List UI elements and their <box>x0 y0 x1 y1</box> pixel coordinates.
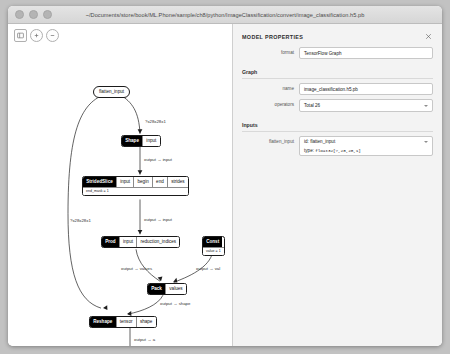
graph-toolbar <box>14 29 59 42</box>
window-titlebar: ~/Documents/store/book/ML.Phone/sample/c… <box>8 6 442 24</box>
edge-label-prod-pack: output → values <box>121 266 152 271</box>
operators-value[interactable]: Total 26 <box>299 99 433 111</box>
node-header-row: Const <box>203 237 224 247</box>
panel-title: MODEL PROPERTIES <box>242 34 303 40</box>
node-port-input: input <box>116 177 133 187</box>
graph-section-title: Graph <box>242 69 433 79</box>
type-value: float32[?,28,28,1] <box>315 148 361 153</box>
zoom-in-icon[interactable] <box>30 29 43 42</box>
name-value: image_classification.h5.pb <box>299 83 433 95</box>
node-attribute-value: value = 1 <box>203 247 224 256</box>
node-header-row: Reshape tensor shape <box>90 317 156 327</box>
node-header-row: Pack values <box>148 284 186 294</box>
edge-label-const-pack: output → val <box>196 266 220 271</box>
format-value: TensorFlow Graph <box>299 47 433 59</box>
node-header-row: Shape input <box>122 136 160 146</box>
operators-label: operators <box>242 99 299 107</box>
flatten-input-value[interactable]: id: flatten_input type: float32[?,28,28,… <box>299 136 433 157</box>
node-title: StridedSlice <box>83 177 116 187</box>
graph-node-pack[interactable]: Pack values <box>147 283 187 295</box>
node-attribute-end-mask: end_mask = 1 <box>83 187 188 196</box>
node-port-strides: strides <box>167 177 188 187</box>
node-port-end: end <box>152 177 167 187</box>
graph-node-stridedslice[interactable]: StridedSlice input begin end strides end… <box>82 176 189 196</box>
inputs-section: Inputs <box>233 116 442 136</box>
graph-node-flatten-input[interactable]: flatten_input <box>93 86 130 98</box>
flatten-input-type: type: float32[?,28,28,1] <box>304 148 428 153</box>
node-port-input: input <box>119 237 136 247</box>
type-label: type: <box>304 148 315 153</box>
app-window: ~/Documents/store/book/ML.Phone/sample/c… <box>8 6 442 346</box>
graph-node-reshape[interactable]: Reshape tensor shape <box>89 316 157 328</box>
graph-node-const[interactable]: Const value = 1 <box>202 236 225 256</box>
node-port-shape: shape <box>136 317 156 327</box>
window-title: ~/Documents/store/book/ML.Phone/sample/c… <box>8 12 442 18</box>
properties-header: MODEL PROPERTIES <box>233 24 442 47</box>
node-title: Reshape <box>90 317 116 327</box>
node-header-row: Prod input reduction_indices <box>102 237 179 247</box>
edge-label-shape-stridedslice: output → input <box>144 157 172 162</box>
window-body: flatten_input Shape input StridedSlice i… <box>8 24 442 346</box>
name-label: name <box>242 83 299 91</box>
close-icon[interactable] <box>424 32 433 41</box>
node-title: Pack <box>148 284 165 294</box>
node-title: Const <box>203 237 222 247</box>
graph-pane[interactable]: flatten_input Shape input StridedSlice i… <box>8 24 233 346</box>
sidebar-icon[interactable] <box>14 29 27 42</box>
flatten-input-id: id: flatten_input <box>304 139 428 144</box>
node-port-begin: begin <box>133 177 152 187</box>
node-port-tensor: tensor <box>116 317 136 327</box>
field-flatten-input[interactable]: flatten_input id: flatten_input type: fl… <box>233 136 442 161</box>
format-label: format <box>242 47 299 55</box>
node-port-input: input <box>142 136 159 146</box>
edge-label-input-shape: ?x28x28x1 <box>145 119 166 124</box>
field-name: name image_classification.h5.pb <box>233 83 442 99</box>
node-port-reduction-indices: reduction_indices <box>136 237 179 247</box>
node-label: flatten_input <box>99 90 124 95</box>
graph-node-shape[interactable]: Shape input <box>121 135 161 147</box>
edge-label-pack-reshape: output → shape <box>160 301 190 306</box>
node-header-row: StridedSlice input begin end strides <box>83 177 188 187</box>
screenshot-root: ~/Documents/store/book/ML.Phone/sample/c… <box>0 0 450 354</box>
edge-label-stridedslice-prod: output → input <box>144 217 172 222</box>
field-format: format TensorFlow Graph <box>233 47 442 63</box>
node-port-values: values <box>165 284 186 294</box>
flatten-input-label: flatten_input <box>242 136 299 144</box>
node-title: Shape <box>122 136 142 146</box>
inputs-section-title: Inputs <box>242 122 433 132</box>
edge-label-input-reshape: ?x28x28x1 <box>70 218 91 223</box>
graph-section: Graph <box>233 63 442 83</box>
zoom-out-icon[interactable] <box>46 29 59 42</box>
field-operators[interactable]: operators Total 26 <box>233 99 442 115</box>
graph-node-prod[interactable]: Prod input reduction_indices <box>101 236 180 248</box>
edge-label-reshape-out: output → a <box>134 337 155 342</box>
model-properties-panel: MODEL PROPERTIES format TensorFlow Graph… <box>233 24 442 346</box>
node-title: Prod <box>102 237 119 247</box>
